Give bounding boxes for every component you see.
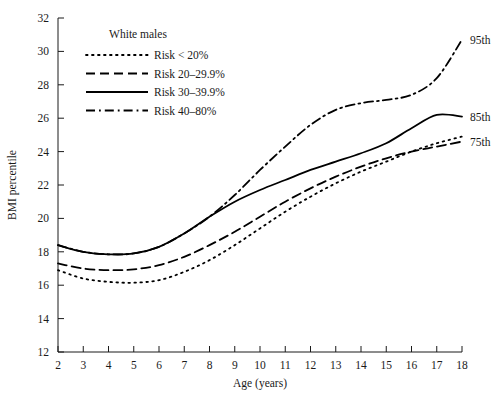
- legend-title: White males: [109, 28, 167, 40]
- curve-risk-20: [58, 137, 462, 283]
- x-tick-label-14: 14: [355, 359, 367, 371]
- y-tick-label-30: 30: [38, 45, 50, 57]
- y-tick-label-14: 14: [38, 313, 50, 325]
- x-tick-label-4: 4: [106, 359, 112, 371]
- x-tick-label-8: 8: [207, 359, 213, 371]
- x-tick-label-18: 18: [456, 359, 468, 371]
- y-tick-label-32: 32: [38, 12, 50, 24]
- curve-risk-20-29-9: [58, 142, 462, 271]
- legend-label-1: Risk < 20%: [154, 49, 209, 61]
- y-tick-label-24: 24: [38, 146, 50, 158]
- x-tick-label-6: 6: [156, 359, 162, 371]
- chart-canvas: 1214161820222426283032234567891011121314…: [0, 0, 496, 403]
- end-label-85th: 85th: [470, 111, 491, 123]
- x-tick-label-5: 5: [131, 359, 137, 371]
- y-tick-label-20: 20: [38, 212, 50, 224]
- legend-label-4: Risk 40–80%: [154, 105, 217, 117]
- x-tick-label-2: 2: [55, 359, 61, 371]
- bmi-percentile-chart: 1214161820222426283032234567891011121314…: [0, 0, 496, 403]
- y-axis-title: BMI percentile: [6, 150, 19, 220]
- x-tick-label-11: 11: [280, 359, 291, 371]
- axis-frame: [58, 18, 462, 352]
- y-tick-label-26: 26: [38, 112, 50, 124]
- x-tick-label-7: 7: [181, 359, 187, 371]
- x-tick-label-15: 15: [381, 359, 393, 371]
- x-tick-label-16: 16: [406, 359, 418, 371]
- x-tick-label-13: 13: [330, 359, 342, 371]
- end-label-75th: 75th: [470, 136, 491, 148]
- x-tick-label-17: 17: [431, 359, 443, 371]
- legend-label-3: Risk 30–39.9%: [154, 86, 225, 98]
- y-tick-label-28: 28: [38, 79, 50, 91]
- curve-risk-30-39-9: [58, 114, 462, 254]
- y-tick-label-16: 16: [38, 279, 50, 291]
- x-tick-label-12: 12: [305, 359, 317, 371]
- x-axis-title: Age (years): [233, 377, 287, 390]
- y-tick-label-18: 18: [38, 246, 50, 258]
- legend-label-2: Risk 20–29.9%: [154, 68, 225, 80]
- end-label-95th: 95th: [470, 34, 491, 46]
- y-tick-label-12: 12: [38, 346, 50, 358]
- y-tick-label-22: 22: [38, 179, 50, 191]
- x-tick-label-3: 3: [80, 359, 86, 371]
- x-tick-label-10: 10: [254, 359, 266, 371]
- x-tick-label-9: 9: [232, 359, 238, 371]
- curve-risk-40-80: [58, 40, 462, 255]
